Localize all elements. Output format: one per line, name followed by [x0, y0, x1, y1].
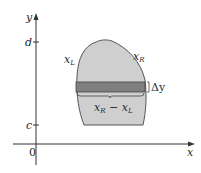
- x-axis-label: x: [187, 146, 194, 159]
- tick-label-d: d: [25, 36, 32, 49]
- delta-y-bracket-icon: [147, 82, 149, 92]
- y-axis-arrow-icon: [34, 13, 39, 20]
- tick-label-c: c: [26, 119, 32, 132]
- y-axis-label: y: [25, 11, 33, 24]
- delta-y-label: Δy: [151, 81, 166, 94]
- right-curve-label: xR: [133, 50, 145, 64]
- origin-label: 0: [29, 146, 36, 159]
- region-diagram: y d c 0 x xL xR Δy xR − xL: [0, 0, 201, 173]
- horizontal-strip: [76, 82, 145, 92]
- strip-width-label: xR − xL: [94, 101, 133, 115]
- left-curve-label: xL: [64, 53, 75, 67]
